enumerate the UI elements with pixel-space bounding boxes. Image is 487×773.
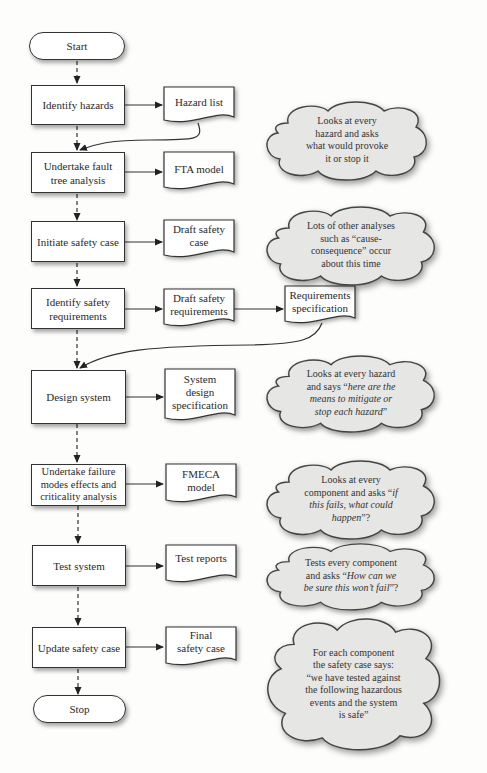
document-requirements-specification: Requirements specification — [285, 286, 355, 326]
feedback-curve-hazard-list — [80, 123, 200, 150]
document-label: Draft safety case — [164, 220, 234, 252]
stop-terminal: Stop — [33, 695, 126, 723]
process-test-system: Test system — [32, 545, 126, 586]
process-label: Design system — [46, 390, 110, 404]
document-fmeca-model: FMECA model — [166, 464, 236, 505]
process-identify-hazards: Identify hazards — [31, 85, 125, 125]
document-draft-safety-requirements: Draft safety requirements — [164, 289, 234, 329]
document-fta-model: FTA model — [164, 152, 234, 192]
document-draft-safety-case: Draft safety case — [164, 220, 234, 260]
note-text: For each componentthe safety case says:“… — [266, 618, 441, 750]
process-fault-tree-analysis: Undertake fault tree analysis — [31, 152, 125, 193]
process-label: Initiate safety case — [37, 235, 119, 249]
document-test-reports: Test reports — [166, 545, 236, 585]
cloud-note-other-analyses: Lots of other analysessuch as “cause-con… — [266, 206, 436, 284]
document-label: FMECA model — [176, 464, 226, 497]
cloud-note-fta: Looks at everyhazard and askswhat would … — [266, 101, 428, 179]
note-text: Looks at everyhazard and askswhat would … — [266, 101, 428, 179]
document-system-design-specification: System design specification — [165, 369, 235, 424]
cloud-note-safety-case: For each componentthe safety case says:“… — [266, 618, 441, 750]
document-final-safety-case: Final safety case — [166, 627, 236, 668]
process-label: Undertake fault tree analysis — [36, 159, 120, 187]
document-label: Requirements specification — [285, 286, 355, 318]
process-update-safety-case: Update safety case — [32, 627, 126, 668]
note-text: Lots of other analysessuch as “cause-con… — [266, 206, 436, 284]
process-design-system: Design system — [31, 370, 126, 424]
document-label: Test reports — [166, 545, 236, 571]
process-identify-safety-requirements: Identify safety requirements — [31, 288, 125, 329]
stop-label: Stop — [69, 703, 89, 715]
start-terminal: Start — [29, 32, 125, 60]
document-label: Draft safety requirements — [164, 289, 234, 321]
note-text: Looks at every hazardand says “here are … — [266, 355, 436, 431]
process-label: Test system — [53, 559, 104, 573]
note-text: Tests every componentand asks “How can w… — [266, 543, 436, 609]
start-label: Start — [67, 40, 88, 52]
process-fmeca: Undertake failure modes effects and crit… — [31, 464, 126, 506]
process-label: Identify hazards — [42, 98, 113, 112]
process-label: Undertake failure modes effects and crit… — [36, 466, 121, 504]
document-label: Hazard list — [164, 87, 234, 117]
document-hazard-list: Hazard list — [164, 87, 234, 125]
note-text: Looks at everycomponent and asks “ifthis… — [266, 460, 436, 538]
document-label: Final safety case — [173, 627, 229, 657]
document-label: System design specification — [171, 369, 229, 415]
process-initiate-safety-case: Initiate safety case — [31, 221, 125, 262]
cloud-note-design: Looks at every hazardand says “here are … — [266, 355, 436, 431]
cloud-note-test: Tests every componentand asks “How can w… — [266, 543, 436, 609]
document-label: FTA model — [164, 152, 234, 186]
cloud-note-fmeca: Looks at everycomponent and asks “ifthis… — [266, 460, 436, 538]
process-label: Update safety case — [38, 641, 120, 655]
process-label: Identify safety requirements — [36, 295, 120, 323]
